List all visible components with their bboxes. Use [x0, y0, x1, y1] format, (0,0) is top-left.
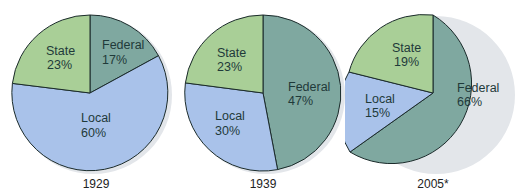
label-local-pct: 15%	[365, 106, 390, 120]
pie-chart-1939: State 23% Federal 47% Local 30%	[175, 0, 345, 175]
label-state-name: State	[46, 44, 75, 58]
label-federal-pct: 66%	[457, 95, 482, 109]
label-state-pct: 19%	[394, 55, 419, 69]
pie-1929-svg: State 23% Federal 17% Local 60%	[0, 0, 180, 175]
label-federal-pct: 17%	[102, 53, 127, 67]
pie-chart-1929: State 23% Federal 17% Local 60%	[0, 0, 180, 175]
label-state-pct: 23%	[47, 58, 72, 72]
label-state-name: State	[392, 41, 421, 55]
label-local-name: Local	[365, 92, 395, 106]
label-local-pct: 60%	[81, 126, 106, 140]
label-federal-name: Federal	[288, 80, 330, 94]
pie-chart-2005: State 19% Federal 66% Local 15%	[345, 0, 519, 175]
label-state-pct: 23%	[217, 60, 242, 74]
year-label-2005: 2005*	[373, 177, 493, 191]
label-federal-name: Federal	[102, 38, 144, 52]
label-local-name: Local	[215, 109, 245, 123]
label-state-name: State	[217, 46, 246, 60]
label-federal-name: Federal	[457, 81, 499, 95]
label-local-name: Local	[81, 111, 111, 125]
label-federal-pct: 47%	[288, 94, 313, 108]
pie-1939-svg: State 23% Federal 47% Local 30%	[175, 0, 345, 175]
pie-2005-svg: State 19% Federal 66% Local 15%	[345, 0, 519, 175]
label-local-pct: 30%	[215, 124, 240, 138]
year-label-1929: 1929	[36, 177, 156, 191]
year-label-1939: 1939	[203, 177, 323, 191]
